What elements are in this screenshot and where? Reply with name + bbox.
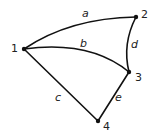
- edge-c: [24, 49, 98, 121]
- edge-label-b: b: [80, 37, 87, 50]
- node-1: [22, 47, 26, 51]
- node-2: [134, 15, 138, 19]
- node-label-2: 2: [141, 8, 148, 21]
- node-label-3: 3: [135, 71, 142, 84]
- edge-label-c: c: [55, 91, 61, 104]
- node-label-1: 1: [11, 42, 18, 55]
- edge-b: [24, 47, 129, 72]
- node-3: [127, 70, 131, 74]
- edge-label-a: a: [82, 7, 89, 20]
- edge-label-d: d: [131, 38, 139, 51]
- edge-label-e: e: [115, 91, 122, 104]
- edge-e: [98, 72, 129, 121]
- node-label-4: 4: [103, 120, 110, 133]
- node-4: [96, 119, 100, 123]
- graph-diagram: 1 2 3 4 a b c d e: [0, 0, 159, 134]
